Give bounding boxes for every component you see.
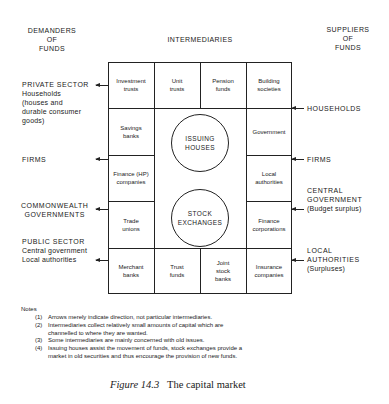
- cell-pension-funds: Pension funds: [200, 62, 246, 108]
- note-item: (4) Issuing houses assist the movement o…: [35, 345, 335, 361]
- stock-exchanges-circle: STOCK EXCHANGES: [171, 189, 229, 247]
- demanders-header-line: DEMANDERS: [22, 26, 82, 35]
- central-government-label: CENTRAL GOVERNMENT (Budget surplus): [307, 186, 362, 213]
- suppliers-header-line: FUNDS: [318, 43, 378, 52]
- arrow-to-public-sector: [96, 260, 108, 261]
- intermediaries-header: INTERMEDIARIES: [140, 35, 260, 44]
- public-sector-label: PUBLIC SECTOR Central government Local a…: [22, 237, 87, 264]
- arrow-to-private-sector: [96, 85, 108, 86]
- cell-savings-banks: Savings banks: [108, 108, 154, 155]
- note-text: Some intermediaries are mainly concerned…: [48, 337, 204, 345]
- supplier-firms-label: FIRMS: [307, 155, 331, 164]
- supplier-firms-text: FIRMS: [307, 155, 331, 164]
- private-sector-title: PRIVATE SECTOR: [22, 80, 89, 89]
- arrow-to-firms: [96, 159, 108, 160]
- note-item: (2) Intermediaries collect relatively sm…: [35, 322, 335, 338]
- supplier-households-label: HOUSEHOLDS: [307, 104, 361, 113]
- notes-title: Notes: [21, 306, 37, 314]
- private-sector-line: Households: [22, 89, 89, 98]
- note-number: (4): [35, 345, 42, 353]
- private-sector-line: (houses and: [22, 98, 89, 107]
- note-text: Intermediaries collect relatively small …: [48, 322, 223, 330]
- private-sector-line: goods): [22, 116, 89, 125]
- suppliers-header-line: OF: [318, 34, 378, 43]
- supplier-households-text: HOUSEHOLDS: [307, 104, 361, 113]
- figure-title: The capital market: [167, 379, 246, 390]
- issuing-houses-circle: ISSUING HOUSES: [171, 114, 229, 172]
- suppliers-header-line: SUPPLIERS: [318, 25, 378, 34]
- local-authorities-label: LOCAL AUTHORITIES (Surpluses): [307, 246, 360, 273]
- arrow-from-central-government: [292, 209, 304, 210]
- local-authorities-line: (Surpluses): [307, 264, 360, 273]
- suppliers-header: SUPPLIERS OF FUNDS: [318, 25, 378, 52]
- note-item: (1) Arrows merely indicate direction, no…: [35, 314, 335, 322]
- local-authorities-line: LOCAL: [307, 246, 360, 255]
- arrow-from-households: [292, 108, 304, 109]
- commonwealth-governments-label: COMMONWEALTH GOVERNMENTS: [21, 201, 88, 219]
- cell-unit-trusts: Unit trusts: [154, 62, 200, 108]
- local-authorities-line: AUTHORITIES: [307, 255, 360, 264]
- note-number: (2): [35, 322, 42, 330]
- note-text: Arrows merely indicate direction, not pa…: [48, 314, 212, 322]
- cell-government: Government: [246, 108, 292, 155]
- cell-trust-funds: Trust funds: [154, 248, 200, 294]
- public-sector-line: Central government: [22, 246, 87, 255]
- figure-label: Figure 14.3: [110, 379, 159, 390]
- commonwealth-line: COMMONWEALTH: [21, 201, 88, 210]
- cell-insurance-companies: Insurance companies: [246, 248, 292, 294]
- note-item: (3) Some intermediaries are mainly conce…: [35, 337, 335, 345]
- central-government-line: GOVERNMENT: [307, 195, 362, 204]
- demander-firms-text: FIRMS: [22, 155, 46, 164]
- cell-finance-hp-companies: Finance (HP) companies: [108, 155, 154, 201]
- note-number: (3): [35, 337, 42, 345]
- central-government-line: CENTRAL: [307, 186, 362, 195]
- arrow-to-commonwealth: [96, 209, 108, 210]
- cell-joint-stock-banks: Joint stock banks: [200, 248, 246, 294]
- public-sector-line: Local authorities: [22, 255, 87, 264]
- private-sector-label: PRIVATE SECTOR Households (houses and du…: [22, 80, 89, 125]
- cell-local-authorities: Local authorities: [246, 155, 292, 201]
- arrow-from-local-authorities: [292, 260, 304, 261]
- cell-merchant-banks: Merchant banks: [108, 248, 154, 294]
- cell-building-societies: Building societies: [246, 62, 292, 108]
- note-number: (1): [35, 314, 42, 322]
- commonwealth-line: GOVERNMENTS: [21, 210, 88, 219]
- demanders-header-line: FUNDS: [22, 44, 82, 53]
- note-text: market in old securities and thus encour…: [48, 353, 237, 361]
- central-government-line: (Budget surplus): [307, 204, 362, 213]
- cell-finance-corporations: Finance corporations: [246, 201, 292, 248]
- cell-investment-trusts: Investment trusts: [108, 62, 154, 108]
- demanders-header: DEMANDERS OF FUNDS: [22, 26, 82, 53]
- demander-firms-label: FIRMS: [22, 155, 46, 164]
- demanders-header-line: OF: [22, 35, 82, 44]
- note-text: Issuing houses assist the movement of fu…: [48, 345, 242, 353]
- figure-caption: Figure 14.3 The capital market: [110, 379, 246, 390]
- public-sector-title: PUBLIC SECTOR: [22, 237, 87, 246]
- private-sector-line: durable consumer: [22, 107, 89, 116]
- cell-trade-unions: Trade unions: [108, 201, 154, 248]
- arrow-from-firms: [292, 159, 304, 160]
